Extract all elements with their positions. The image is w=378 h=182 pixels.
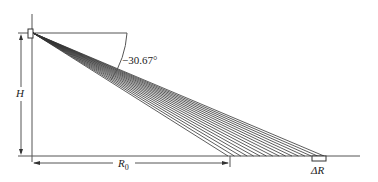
ray-line [33, 33, 254, 156]
range-label: R0 [118, 158, 129, 172]
ray-line [33, 33, 241, 156]
ray-line [33, 33, 279, 156]
arrow-head-up [19, 34, 23, 40]
delta-r-box [312, 156, 326, 161]
ray-line [33, 33, 234, 156]
ray-line [33, 33, 247, 156]
ray-line [33, 33, 273, 156]
ray-line [33, 33, 260, 156]
range-symbol: R [118, 157, 125, 169]
ray-line [33, 33, 292, 156]
arrow-head-down [19, 149, 23, 155]
ray-fan [33, 33, 324, 156]
range-subscript: 0 [125, 163, 129, 172]
source-box [28, 29, 33, 38]
delta-r-label: ΔR [311, 165, 324, 176]
ray-line [33, 33, 228, 156]
ray-line [33, 33, 324, 156]
ray-line [33, 33, 266, 156]
height-label: H [16, 88, 24, 99]
geometry-diagram [0, 0, 378, 182]
arrow-head-right [222, 161, 229, 165]
arrow-head-left [33, 161, 40, 165]
angle-label: −30.67° [122, 55, 157, 66]
ray-line [33, 33, 286, 156]
